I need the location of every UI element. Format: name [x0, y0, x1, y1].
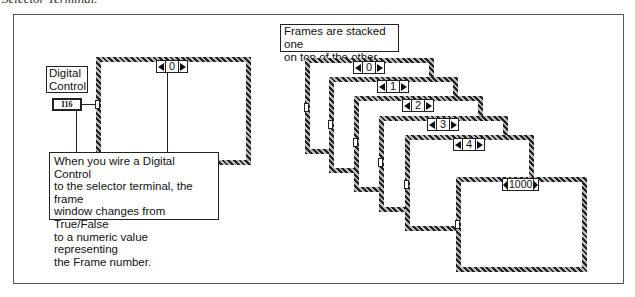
stacked-frames-label: Frames are stacked one on top of the oth… [280, 24, 399, 52]
frame-selector-value: 1 [386, 81, 400, 92]
leader-line [167, 73, 168, 152]
decrement-arrow-icon[interactable] [455, 141, 461, 149]
control-type: I16 [54, 100, 80, 109]
case-structure-frame [96, 57, 251, 165]
digital-control-terminal[interactable]: I16 [52, 98, 82, 111]
increment-arrow-icon[interactable] [534, 181, 538, 189]
frame-selector[interactable]: 0 [353, 61, 385, 74]
increment-arrow-icon[interactable] [426, 102, 432, 110]
label-line: Control [49, 80, 85, 93]
frame-selector[interactable]: 1 [377, 80, 409, 93]
frame-selector-value: 4 [462, 139, 476, 150]
selector-terminal[interactable] [353, 138, 358, 147]
callout-line: to a numeric value representing [54, 231, 214, 256]
increment-arrow-icon[interactable] [401, 83, 407, 91]
callout-line: window changes from True/False [54, 205, 214, 230]
label-line: Frames are stacked one [284, 25, 395, 51]
decrement-arrow-icon[interactable] [404, 102, 410, 110]
decrement-arrow-icon[interactable] [429, 121, 435, 129]
digital-control-label: Digital Control [46, 66, 88, 93]
wire [82, 104, 96, 105]
frame-selector-value: 1000 [507, 179, 534, 190]
selector-terminal[interactable] [455, 220, 460, 229]
callout-line: to the selector terminal, the frame [54, 180, 214, 205]
selector-terminal[interactable] [378, 158, 383, 167]
callout-line: When you wire a Digital Control [54, 155, 214, 180]
selector-terminal[interactable] [328, 120, 333, 129]
figure-caption: Selector Terminal. [2, 0, 98, 7]
decrement-arrow-icon[interactable] [355, 64, 361, 72]
selector-terminal[interactable] [404, 180, 409, 189]
frame-selector[interactable]: 3 [427, 118, 459, 131]
frame-selector[interactable]: 4 [453, 138, 485, 151]
selector-terminal[interactable] [304, 103, 309, 112]
frame-selector-value: 0 [165, 61, 179, 72]
increment-arrow-icon[interactable] [377, 64, 383, 72]
frame-selector-value: 0 [362, 62, 376, 73]
label-line: Digital [49, 67, 85, 80]
increment-arrow-icon[interactable] [451, 121, 457, 129]
frame-selector[interactable]: 0 [156, 60, 188, 73]
increment-arrow-icon[interactable] [477, 141, 483, 149]
frame-selector[interactable]: 2 [402, 99, 434, 112]
callout-line: the Frame number. [54, 256, 214, 269]
stacked-frame-1000 [456, 177, 587, 272]
frame-selector[interactable]: 1000 [502, 178, 539, 191]
decrement-arrow-icon[interactable] [158, 63, 164, 71]
frame-selector-value: 3 [436, 119, 450, 130]
decrement-arrow-icon[interactable] [379, 83, 385, 91]
leader-line [76, 111, 77, 152]
increment-arrow-icon[interactable] [180, 63, 186, 71]
callout-text-box: When you wire a Digital Control to the s… [49, 152, 219, 220]
frame-selector-value: 2 [411, 100, 425, 111]
